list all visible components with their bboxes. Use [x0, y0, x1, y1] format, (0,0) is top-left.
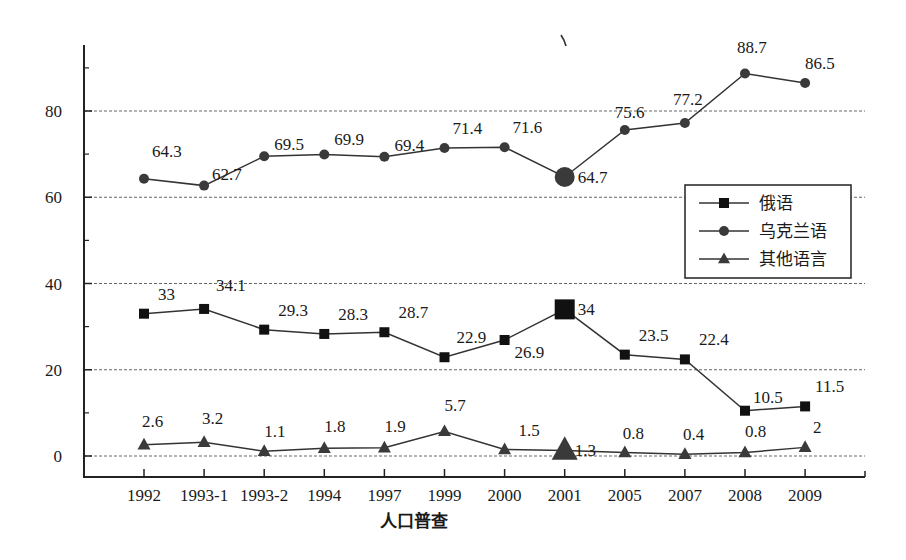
- data-marker: [740, 68, 750, 78]
- scan-artifact: [561, 35, 566, 46]
- series-line: [144, 431, 805, 454]
- data-label: 34.1: [216, 276, 246, 295]
- x-tick-label: 1993-1: [180, 486, 228, 505]
- data-label: 75.6: [615, 103, 645, 122]
- y-tick-label: 0: [54, 447, 63, 466]
- legend-circle-icon: [719, 226, 729, 236]
- data-label: 71.6: [513, 118, 543, 137]
- y-tick-label: 20: [45, 361, 62, 380]
- data-marker: [199, 304, 209, 314]
- data-label: 10.5: [753, 388, 783, 407]
- series-triangle: [138, 424, 812, 459]
- data-label: 23.5: [639, 326, 669, 345]
- data-marker: [739, 446, 752, 458]
- x-tick-label: 1993-2: [240, 486, 288, 505]
- y-tick-label: 80: [45, 102, 62, 121]
- data-marker: [800, 78, 810, 88]
- data-marker: [379, 327, 389, 337]
- legend-label: 乌克兰语: [759, 221, 827, 241]
- data-label: 2.6: [142, 412, 163, 431]
- data-marker: [740, 406, 750, 416]
- gridlines: [84, 111, 865, 456]
- data-label: 5.7: [445, 396, 467, 415]
- x-tick-label: 2009: [788, 486, 822, 505]
- data-marker: [438, 424, 451, 436]
- data-marker: [319, 329, 329, 339]
- legend-label: 俄语: [759, 193, 793, 213]
- series-line: [144, 309, 805, 411]
- legend-square-icon: [719, 198, 729, 208]
- data-label: 71.4: [453, 119, 483, 138]
- data-label: 29.3: [278, 301, 308, 320]
- data-label: 64.3: [152, 142, 182, 161]
- data-marker: [620, 350, 630, 360]
- data-marker: [198, 435, 211, 447]
- highlight-marker: [555, 167, 575, 187]
- x-axis-title: 人口普查: [380, 511, 449, 531]
- data-label: 0.8: [745, 422, 766, 441]
- x-tick-label: 2001: [548, 486, 582, 505]
- data-marker: [440, 352, 450, 362]
- y-tick-label: 60: [45, 188, 62, 207]
- data-marker: [319, 150, 329, 160]
- x-tick-label: 2008: [728, 486, 762, 505]
- x-tick-label: 2007: [668, 486, 703, 505]
- data-label: 22.4: [699, 330, 729, 349]
- series-square: [139, 299, 810, 415]
- data-label: 88.7: [737, 38, 767, 57]
- data-label: 1.5: [519, 421, 540, 440]
- data-marker: [500, 335, 510, 345]
- data-label: 77.2: [673, 90, 703, 109]
- data-marker: [678, 447, 691, 459]
- data-label: 28.7: [398, 303, 428, 322]
- data-label: 11.5: [815, 377, 844, 396]
- line-chart: 02040608019921993-11993-2199419971999200…: [0, 0, 906, 560]
- x-tick-label: 1999: [428, 486, 462, 505]
- data-label: 34: [578, 300, 596, 319]
- data-label: 2: [813, 418, 822, 437]
- data-marker: [440, 143, 450, 153]
- data-marker: [138, 438, 151, 450]
- data-label: 64.7: [578, 168, 608, 187]
- data-label: 69.4: [394, 136, 424, 155]
- data-marker: [618, 446, 631, 458]
- x-tick-label: 2005: [608, 486, 642, 505]
- data-label: 69.5: [274, 135, 304, 154]
- data-marker: [259, 325, 269, 335]
- data-marker: [800, 401, 810, 411]
- data-label: 1.8: [324, 417, 345, 436]
- data-marker: [680, 118, 690, 128]
- data-label: 0.4: [683, 425, 705, 444]
- data-label: 22.9: [457, 328, 487, 347]
- data-marker: [259, 151, 269, 161]
- data-label: 3.2: [202, 409, 223, 428]
- x-tick-label: 1992: [127, 486, 161, 505]
- data-marker: [620, 125, 630, 135]
- data-label: 69.9: [334, 130, 364, 149]
- x-tick-label: 1997: [367, 486, 402, 505]
- data-marker: [318, 441, 331, 453]
- data-label: 1.1: [264, 422, 285, 441]
- data-marker: [799, 440, 812, 452]
- data-label: 1.9: [384, 417, 405, 436]
- data-label: 86.5: [805, 54, 835, 73]
- data-marker: [199, 181, 209, 191]
- x-tick-label: 2000: [488, 486, 522, 505]
- data-marker: [500, 142, 510, 152]
- data-marker: [680, 354, 690, 364]
- data-label: 33: [158, 285, 175, 304]
- data-label: 1.3: [575, 441, 596, 460]
- data-marker: [139, 309, 149, 319]
- legend: 俄语乌克兰语其他语言: [685, 185, 851, 278]
- highlight-marker: [555, 299, 575, 319]
- data-label: 0.8: [623, 424, 644, 443]
- data-label: 28.3: [338, 305, 368, 324]
- y-tick-label: 40: [45, 275, 62, 294]
- x-tick-label: 1994: [307, 486, 342, 505]
- data-label: 62.7: [212, 165, 242, 184]
- data-marker: [139, 174, 149, 184]
- data-label: 26.9: [515, 343, 545, 362]
- legend-label: 其他语言: [759, 249, 827, 269]
- data-marker: [379, 152, 389, 162]
